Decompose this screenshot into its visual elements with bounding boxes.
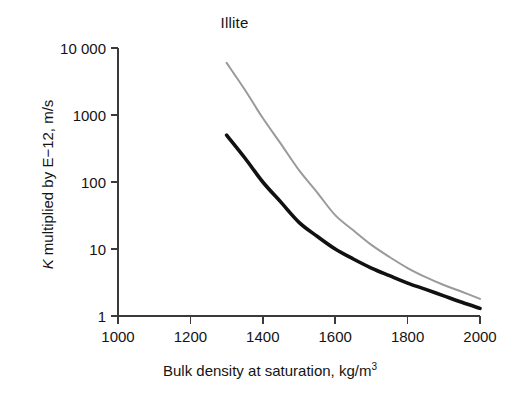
- x-tick-label: 1000: [101, 328, 134, 345]
- x-tick-label: 1400: [246, 328, 279, 345]
- y-tick-label: 100: [81, 174, 106, 191]
- x-tick-label: 1800: [391, 328, 424, 345]
- y-tick-label: 1000: [73, 107, 106, 124]
- y-tick-label: 1: [98, 308, 106, 325]
- series-line-lower-curve: [227, 135, 480, 308]
- series-line-upper-curve: [227, 63, 480, 299]
- x-tick-label: 2000: [463, 328, 496, 345]
- x-tick-label: 1600: [319, 328, 352, 345]
- data-series-group: [227, 63, 480, 309]
- x-tick-label: 1200: [174, 328, 207, 345]
- axes-group: [111, 48, 480, 324]
- plot-canvas: 110100100010 000100012001400160018002000: [0, 0, 529, 404]
- tick-labels-group: 110100100010 000100012001400160018002000: [60, 40, 497, 346]
- y-tick-label: 10 000: [60, 40, 106, 57]
- chart-figure: Illite K multiplied by E−12, m/s Bulk de…: [0, 0, 529, 404]
- y-tick-label: 10: [89, 241, 106, 258]
